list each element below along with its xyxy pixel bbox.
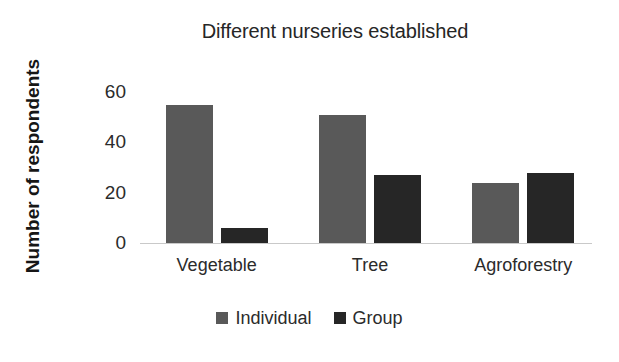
x-tick-label: Vegetable bbox=[137, 255, 297, 276]
bar-agroforestry-individual bbox=[472, 183, 519, 243]
x-tick-label: Agroforestry bbox=[443, 255, 603, 276]
legend-item-individual[interactable]: Individual bbox=[216, 309, 311, 327]
y-tick-label: 40 bbox=[80, 132, 126, 151]
x-tick-label: Tree bbox=[290, 255, 450, 276]
plot-area bbox=[140, 88, 600, 243]
legend-swatch-icon bbox=[334, 312, 346, 324]
x-axis-line bbox=[140, 243, 592, 244]
y-tick-label: 20 bbox=[80, 183, 126, 202]
legend-item-group[interactable]: Group bbox=[334, 309, 403, 327]
bar-vegetable-individual bbox=[166, 105, 213, 243]
y-tick-label: 60 bbox=[80, 82, 126, 101]
bar-chart: Different nurseries established Number o… bbox=[0, 0, 619, 362]
chart-legend: IndividualGroup bbox=[0, 309, 619, 327]
bar-vegetable-group bbox=[221, 228, 268, 243]
bar-tree-group bbox=[374, 175, 421, 243]
legend-label: Group bbox=[353, 309, 403, 327]
y-axis-title: Number of respondents bbox=[22, 26, 44, 306]
legend-label: Individual bbox=[235, 309, 311, 327]
chart-title: Different nurseries established bbox=[95, 20, 575, 43]
y-tick-label: 0 bbox=[80, 233, 126, 252]
bar-tree-individual bbox=[319, 115, 366, 243]
y-axis-title-container: Number of respondents bbox=[0, 0, 56, 330]
bar-agroforestry-group bbox=[527, 173, 574, 243]
legend-swatch-icon bbox=[216, 312, 228, 324]
